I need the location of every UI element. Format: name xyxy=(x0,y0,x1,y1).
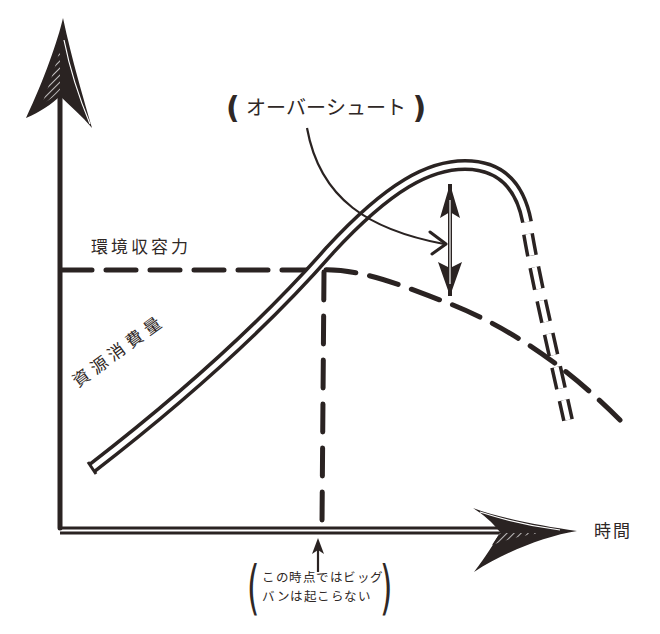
overshoot-open-paren: ( xyxy=(226,90,240,125)
note-open-paren: ( xyxy=(247,557,259,619)
crossing-marker-line xyxy=(322,272,324,524)
x-axis-label: 時間 xyxy=(594,517,632,542)
note-line-1: この時点ではビッグ xyxy=(262,568,384,587)
note-close-paren: ) xyxy=(380,557,392,619)
x-axis-arrowhead-icon xyxy=(473,508,577,572)
overshoot-label: ( オーバーシュート ) xyxy=(226,90,426,125)
overshoot-close-paren: ) xyxy=(412,90,426,125)
overshoot-pointer-arrow xyxy=(307,128,446,254)
big-bang-note: ( この時点ではビッグ バンは起こらない ) xyxy=(246,553,396,633)
note-text: この時点ではビッグ バンは起こらない xyxy=(262,568,384,606)
carrying-capacity-label: 環境収容力 xyxy=(91,233,191,258)
y-axis xyxy=(26,18,92,528)
overshoot-text: オーバーシュート xyxy=(246,96,406,120)
note-line-2: バンは起こらない xyxy=(262,587,384,606)
